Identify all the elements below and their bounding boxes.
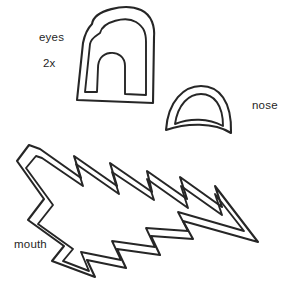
worksheet-canvas: eyes 2x nose mouth: [0, 0, 301, 292]
eyes-label: eyes: [39, 31, 64, 44]
eyes-quantity-label: 2x: [43, 57, 56, 70]
mouth-template-shape: [17, 145, 258, 277]
nose-template-shape: [166, 86, 231, 133]
eye-template-shape: [77, 7, 154, 103]
nose-label: nose: [252, 99, 278, 112]
mouth-label: mouth: [14, 238, 47, 251]
eye-inner-outline: [85, 19, 146, 95]
nose-inner-outline: [175, 94, 223, 126]
